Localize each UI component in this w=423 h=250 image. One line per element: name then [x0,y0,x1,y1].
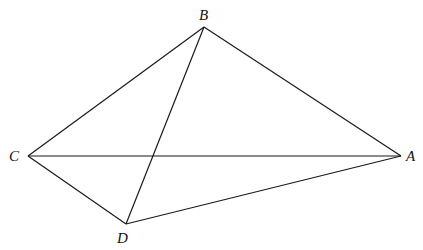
vertex-label-d: D [116,230,128,246]
segments-group [28,27,401,224]
segment-ab [204,27,401,156]
geometry-diagram: ABCD [0,0,423,250]
segment-bc [28,27,204,156]
segment-bd [126,27,204,224]
segment-da [126,156,401,224]
vertex-label-b: B [199,7,208,23]
vertex-label-c: C [9,148,20,164]
vertex-label-a: A [405,148,416,164]
segment-cd [28,156,126,224]
